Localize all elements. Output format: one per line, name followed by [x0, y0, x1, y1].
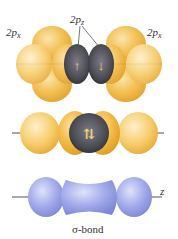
central-sigma-lobe — [61, 180, 117, 215]
center-2pz-label: 2pz — [70, 14, 84, 27]
z-axis-label: z — [160, 186, 164, 197]
label-pointer — [82, 26, 100, 48]
electron-up-arrow: ↑ — [74, 58, 81, 73]
right-outer-lobe — [118, 112, 158, 154]
electron-pair-arrows: ⇅ — [83, 127, 95, 142]
panel-overlapping-orbitals: ⇅ — [12, 111, 164, 155]
left-2px-label: 2px — [6, 27, 21, 40]
left-outer-lobe — [20, 112, 60, 154]
panel-separate-orbitals: ↑ ↓ — [16, 26, 162, 102]
left-sigma-lobe — [28, 177, 64, 217]
panel-sigma-bond — [12, 177, 162, 217]
electron-down-arrow: ↓ — [98, 58, 105, 73]
right-sigma-lobe — [116, 177, 152, 217]
sigma-bond-caption: σ-bond — [72, 224, 104, 235]
right-2px-label: 2px — [147, 27, 162, 40]
